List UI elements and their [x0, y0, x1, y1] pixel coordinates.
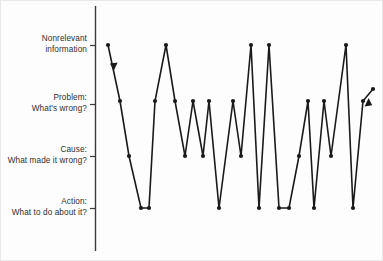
data-point	[139, 206, 143, 210]
data-point	[173, 99, 177, 103]
data-point	[267, 43, 271, 47]
start-arrow-icon	[110, 62, 118, 71]
data-point	[312, 206, 316, 210]
data-point	[201, 154, 205, 158]
axis-label-problem: Problem: What's wrong?	[32, 93, 87, 114]
data-point	[277, 206, 281, 210]
data-point	[257, 206, 261, 210]
axis-label-cause: Cause: What made it wrong?	[8, 145, 87, 166]
axis-label-line2: information	[42, 45, 87, 56]
data-point	[217, 206, 221, 210]
data-point	[329, 154, 333, 158]
data-point	[297, 154, 301, 158]
axis-label-line2: What made it wrong?	[8, 156, 87, 167]
data-point	[147, 206, 151, 210]
data-point	[351, 206, 355, 210]
data-point	[322, 99, 326, 103]
data-point	[207, 99, 211, 103]
data-point	[239, 154, 243, 158]
data-point	[118, 99, 122, 103]
data-point	[191, 99, 195, 103]
data-point	[344, 43, 348, 47]
axis-label-line1: Problem:	[53, 93, 87, 102]
end-arrow-icon	[365, 98, 373, 106]
data-point	[249, 43, 253, 47]
axis-label-line1: Nonrelevant	[42, 34, 87, 43]
data-point	[306, 99, 310, 103]
axis-label-nonrelevant: Nonrelevant information	[42, 34, 87, 55]
axis-label-line1: Cause:	[60, 145, 87, 154]
direction-arrows	[110, 62, 372, 106]
data-point	[231, 99, 235, 103]
data-point	[361, 99, 365, 103]
figure-container: Nonrelevant information Problem: What's …	[0, 0, 383, 261]
data-point	[183, 154, 187, 158]
data-point	[371, 87, 375, 91]
axis-label-action: Action: What to do about it?	[12, 197, 87, 218]
data-line	[108, 45, 373, 208]
data-point	[127, 154, 131, 158]
data-point	[153, 99, 157, 103]
axis-label-line1: Action:	[61, 197, 87, 206]
data-point	[287, 206, 291, 210]
axis-label-line2: What's wrong?	[32, 104, 87, 115]
data-point	[164, 43, 168, 47]
data-point	[106, 43, 110, 47]
axis-label-line2: What to do about it?	[12, 208, 87, 219]
